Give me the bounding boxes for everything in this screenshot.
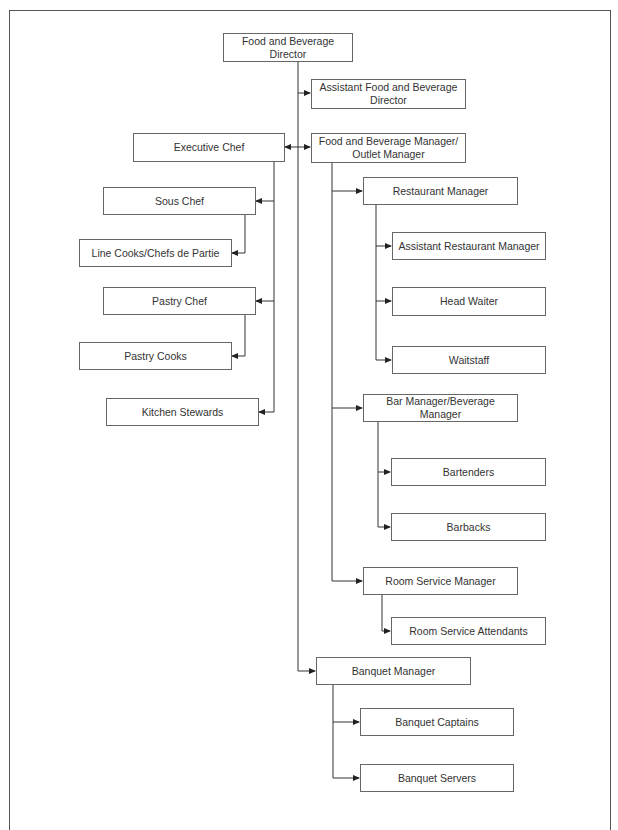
node-label-line2: Director xyxy=(370,94,407,107)
node-fb-manager: Food and Beverage Manager/ Outlet Manage… xyxy=(311,133,466,163)
node-label: Head Waiter xyxy=(440,295,498,308)
node-label: Room Service Manager xyxy=(385,575,495,588)
node-label: Banquet Servers xyxy=(398,772,476,785)
node-pastry-chef: Pastry Chef xyxy=(103,287,256,315)
node-label: Kitchen Stewards xyxy=(142,406,224,419)
node-banquet-servers: Banquet Servers xyxy=(360,764,514,792)
node-sous-chef: Sous Chef xyxy=(103,187,256,215)
node-label-line1: Assistant Food and Beverage xyxy=(320,81,458,94)
node-label: Waitstaff xyxy=(449,354,489,367)
node-label: Banquet Captains xyxy=(395,716,478,729)
node-fb-director: Food and Beverage Director xyxy=(223,33,353,62)
node-kitchen-stewards: Kitchen Stewards xyxy=(106,398,259,426)
node-label: Bartenders xyxy=(443,466,494,479)
node-assistant-fb-director: Assistant Food and Beverage Director xyxy=(311,79,466,109)
node-label: Assistant Restaurant Manager xyxy=(398,240,539,253)
node-label: Barbacks xyxy=(447,521,491,534)
node-label-line2: Outlet Manager xyxy=(352,148,424,161)
node-label: Restaurant Manager xyxy=(393,185,489,198)
node-assistant-restaurant-manager: Assistant Restaurant Manager xyxy=(392,232,546,260)
node-label: Bar Manager/Beverage Manager xyxy=(368,395,513,421)
node-banquet-manager: Banquet Manager xyxy=(316,657,471,685)
node-label: Pastry Chef xyxy=(152,295,207,308)
node-waitstaff: Waitstaff xyxy=(392,346,546,374)
node-label: Food and Beverage Director xyxy=(228,35,348,61)
node-banquet-captains: Banquet Captains xyxy=(360,708,514,736)
node-restaurant-manager: Restaurant Manager xyxy=(363,177,518,205)
node-executive-chef: Executive Chef xyxy=(133,133,285,162)
node-bartenders: Bartenders xyxy=(391,458,546,486)
node-label: Banquet Manager xyxy=(352,665,435,678)
node-label: Line Cooks/Chefs de Partie xyxy=(92,247,220,260)
node-barbacks: Barbacks xyxy=(391,513,546,541)
node-label: Executive Chef xyxy=(174,141,245,154)
node-bar-manager: Bar Manager/Beverage Manager xyxy=(363,394,518,422)
node-label: Sous Chef xyxy=(155,195,204,208)
node-line-cooks: Line Cooks/Chefs de Partie xyxy=(79,239,232,267)
node-label: Pastry Cooks xyxy=(124,350,186,363)
node-room-service-manager: Room Service Manager xyxy=(363,567,518,595)
node-label-line1: Food and Beverage Manager/ xyxy=(319,135,459,148)
node-room-service-attendants: Room Service Attendants xyxy=(391,617,546,645)
node-pastry-cooks: Pastry Cooks xyxy=(79,342,232,370)
node-label: Room Service Attendants xyxy=(409,625,527,638)
node-head-waiter: Head Waiter xyxy=(392,287,546,316)
